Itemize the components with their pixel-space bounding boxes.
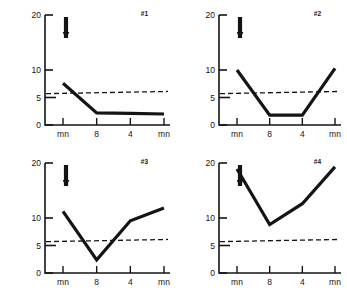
panel-id-label: #1 [141, 10, 149, 17]
y-tick-label: 5 [210, 93, 215, 103]
cortisol-panel-figure: 051020mn84mn#1051020mn84mn#2051020mn84mn… [0, 0, 347, 296]
x-tick-label: 4 [128, 129, 133, 139]
y-tick-label: 5 [36, 241, 41, 251]
x-tick-label: 8 [267, 277, 272, 287]
x-tick-label: 4 [128, 277, 133, 287]
x-tick-label: mn [57, 129, 69, 139]
x-tick-label: mn [158, 129, 170, 139]
y-tick-label: 20 [206, 158, 216, 168]
x-tick-label: 8 [94, 129, 99, 139]
y-tick-label: 10 [206, 65, 216, 75]
y-tick-label: 20 [32, 158, 42, 168]
x-tick-label: 4 [300, 129, 305, 139]
x-tick-label: mn [158, 277, 170, 287]
y-tick-label: 5 [36, 93, 41, 103]
figure-background [0, 0, 347, 296]
panel-id-label: #2 [314, 10, 322, 17]
x-tick-label: mn [329, 129, 341, 139]
y-tick-label: 0 [210, 268, 215, 278]
y-tick-label: 5 [210, 241, 215, 251]
x-tick-label: mn [231, 129, 243, 139]
y-tick-label: 20 [206, 10, 216, 20]
y-tick-label: 10 [32, 213, 42, 223]
y-tick-label: 0 [210, 120, 215, 130]
x-tick-label: 8 [267, 129, 272, 139]
y-tick-label: 20 [32, 10, 42, 20]
y-tick-label: 10 [206, 213, 216, 223]
y-tick-label: 0 [36, 120, 41, 130]
panel-id-label: #4 [314, 158, 322, 165]
x-tick-label: mn [57, 277, 69, 287]
y-tick-label: 0 [36, 268, 41, 278]
panel-id-label: #3 [141, 158, 149, 165]
x-tick-label: 8 [94, 277, 99, 287]
y-tick-label: 10 [32, 65, 42, 75]
x-tick-label: mn [231, 277, 243, 287]
x-tick-label: 4 [300, 277, 305, 287]
x-tick-label: mn [329, 277, 341, 287]
